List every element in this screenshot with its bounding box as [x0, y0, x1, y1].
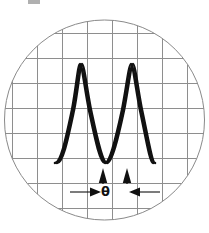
figure-caption-mark: [28, 0, 40, 4]
marker-right-stem: [126, 176, 127, 184]
theta-symbol-label: θ: [101, 185, 110, 198]
oscilloscope-figure: θ: [0, 0, 209, 233]
marker-left-stem: [102, 176, 103, 184]
